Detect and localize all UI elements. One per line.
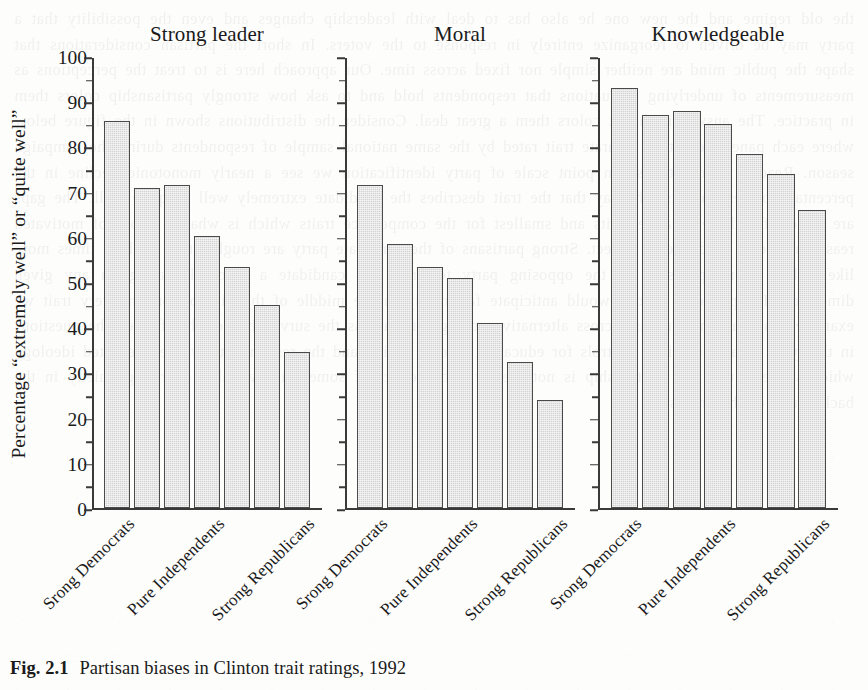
y-axis-major-tick xyxy=(337,419,345,421)
y-axis-major-tick xyxy=(337,102,345,104)
bar xyxy=(704,124,732,508)
chart-panel-moral: Moral xyxy=(345,58,575,510)
y-axis-minor-tick xyxy=(86,125,92,127)
x-axis-labels: Srong DemocratsPure IndependentsStrong R… xyxy=(345,514,575,634)
bar xyxy=(767,174,795,508)
bar xyxy=(134,188,160,508)
y-axis-minor-tick xyxy=(592,125,598,127)
y-axis-major-tick xyxy=(337,148,345,150)
figure-caption: Fig. 2.1Partisan biases in Clinton trait… xyxy=(10,658,406,679)
bar xyxy=(673,111,701,509)
y-axis-major-tick xyxy=(337,328,345,330)
y-axis-minor-tick xyxy=(592,487,598,489)
y-axis-minor-tick xyxy=(86,80,92,82)
y-axis-label: Percentage “extremely well” or “quite we… xyxy=(4,58,34,510)
y-axis-minor-tick xyxy=(339,487,345,489)
y-axis-minor-tick xyxy=(339,215,345,217)
y-axis-minor-tick xyxy=(339,125,345,127)
y-axis-minor-tick xyxy=(339,396,345,398)
y-axis-minor-tick xyxy=(592,261,598,263)
x-axis-baseline xyxy=(92,508,322,510)
y-axis-minor-tick xyxy=(86,170,92,172)
bar xyxy=(357,185,383,508)
bar xyxy=(104,121,130,509)
y-axis-major-tick xyxy=(590,374,598,376)
y-axis-major-tick xyxy=(590,102,598,104)
y-axis-major-tick xyxy=(590,193,598,195)
y-axis-major-tick xyxy=(84,102,92,104)
plot-area xyxy=(94,58,322,508)
bar xyxy=(224,267,250,509)
y-axis-major-tick xyxy=(84,509,92,511)
y-axis-major-tick xyxy=(84,419,92,421)
y-axis-minor-tick xyxy=(86,306,92,308)
chart-panel-strong-leader: Strong leader xyxy=(92,58,322,510)
y-axis-major-tick xyxy=(337,283,345,285)
y-axis-minor-tick xyxy=(339,306,345,308)
bar xyxy=(611,88,639,508)
bar xyxy=(736,154,764,509)
y-axis-major-tick xyxy=(84,283,92,285)
bar xyxy=(164,185,190,508)
y-axis-minor-tick xyxy=(339,170,345,172)
y-axis-major-tick xyxy=(337,374,345,376)
y-axis-major-tick xyxy=(590,148,598,150)
bar xyxy=(447,278,473,509)
y-axis-minor-tick xyxy=(339,80,345,82)
y-axis-major-tick xyxy=(84,238,92,240)
y-axis-minor-tick xyxy=(86,215,92,217)
y-axis-minor-tick xyxy=(86,396,92,398)
y-axis-major-tick xyxy=(337,193,345,195)
plot-area xyxy=(600,58,838,508)
y-axis-minor-tick xyxy=(592,396,598,398)
y-axis-major-tick xyxy=(590,328,598,330)
y-axis-minor-tick xyxy=(339,441,345,443)
chart-panel-knowledgeable: Knowledgeable xyxy=(598,58,838,510)
figure-bar-chart: Percentage “extremely well” or “quite we… xyxy=(0,0,868,690)
y-axis-minor-tick xyxy=(339,261,345,263)
y-axis-major-tick xyxy=(337,509,345,511)
y-axis-minor-tick xyxy=(592,306,598,308)
y-axis-minor-tick xyxy=(86,487,92,489)
y-axis-minor-tick xyxy=(339,351,345,353)
y-axis-minor-tick xyxy=(86,441,92,443)
panel-title: Knowledgeable xyxy=(598,22,838,47)
bar xyxy=(417,267,443,509)
y-axis-major-tick xyxy=(84,328,92,330)
bar xyxy=(194,236,220,508)
y-axis-major-tick xyxy=(84,148,92,150)
bar xyxy=(507,362,533,509)
y-axis-minor-tick xyxy=(86,351,92,353)
y-axis-major-tick xyxy=(590,464,598,466)
y-axis-minor-tick xyxy=(592,215,598,217)
x-axis-tick-label: Strong Republicans xyxy=(723,514,834,625)
x-axis-baseline xyxy=(345,508,575,510)
y-axis-major-tick xyxy=(337,464,345,466)
x-axis-labels: Srong DemocratsPure IndependentsStrong R… xyxy=(598,514,838,634)
y-axis-major-tick xyxy=(84,464,92,466)
y-axis-major-tick xyxy=(337,57,345,59)
y-axis-minor-tick xyxy=(592,441,598,443)
y-axis-minor-tick xyxy=(592,351,598,353)
x-axis-tick-label: Pure Independents xyxy=(635,514,741,620)
bar xyxy=(284,352,310,508)
bar xyxy=(387,244,413,508)
y-axis-minor-tick xyxy=(592,80,598,82)
y-axis-major-tick xyxy=(84,374,92,376)
bar xyxy=(537,400,563,508)
plot-area xyxy=(347,58,575,508)
y-axis-major-tick xyxy=(590,57,598,59)
y-axis-tick-label: 100 xyxy=(58,48,87,68)
x-axis-baseline xyxy=(598,508,838,510)
x-axis-tick-label: Srong Democrats xyxy=(39,514,139,614)
y-axis-major-tick xyxy=(84,193,92,195)
figure-caption-text: Partisan biases in Clinton trait ratings… xyxy=(79,658,406,678)
figure-caption-number: Fig. 2.1 xyxy=(10,658,68,678)
panel-title: Strong leader xyxy=(92,22,322,47)
bar xyxy=(798,210,826,508)
bar xyxy=(477,323,503,508)
y-axis-major-tick xyxy=(337,238,345,240)
y-axis-major-tick xyxy=(590,509,598,511)
x-axis-labels: Srong DemocratsPure IndependentsStrong R… xyxy=(92,514,322,634)
bar xyxy=(642,115,670,508)
